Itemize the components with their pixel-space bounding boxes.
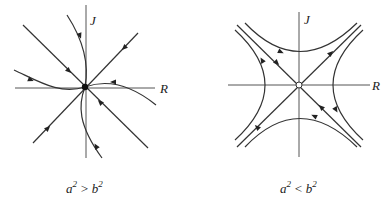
phase-portraits: J R a2>b2 J R [0, 0, 390, 203]
caption-saddle: a2<b2 [280, 179, 317, 196]
trajectory-curve-right [85, 84, 156, 105]
saddle-phase-portrait: J R a2<b2 [228, 12, 380, 196]
r-axis-label: R [371, 78, 380, 93]
node-phase-portrait: J R a2>b2 [14, 5, 168, 196]
j-axis-label: J [304, 12, 311, 27]
stable-node-point [82, 84, 88, 90]
caption-node: a2>b2 [66, 179, 103, 196]
arrow-icon [27, 32, 128, 150]
trajectory-curve-top [67, 15, 86, 87]
trajectory-curve-left [14, 70, 85, 89]
saddle-point [296, 82, 302, 88]
hyperbola-top [245, 23, 357, 52]
r-axis-label: R [159, 81, 168, 96]
j-axis-label: J [90, 13, 97, 28]
